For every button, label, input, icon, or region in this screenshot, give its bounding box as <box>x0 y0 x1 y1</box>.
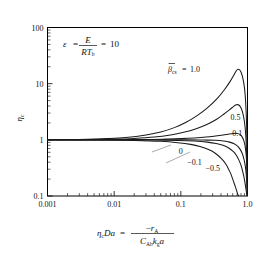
x-tick-labels: 0.0010.010.11.0 <box>39 200 253 209</box>
x-tick-label: 0.001 <box>39 200 57 209</box>
epsilon-equals-2: = <box>101 39 106 49</box>
epsilon-equals: = <box>73 39 78 49</box>
y-tick-label: 1 <box>40 136 44 145</box>
x-tick-label: 0.1 <box>176 200 186 209</box>
x-axis-equals: = <box>120 228 125 238</box>
y-axis-label: ηc <box>14 114 25 121</box>
y-tick-labels: 0.1110100 <box>32 24 44 202</box>
epsilon-numerator: E <box>84 35 91 45</box>
y-tick-label: 10 <box>36 80 44 89</box>
y-tick-label: 0.1 <box>34 192 44 201</box>
svg-text:ηc: ηc <box>14 114 25 121</box>
beta-symbol: βcs <box>167 65 177 75</box>
y-axis-eta-sub: c <box>19 114 25 117</box>
curve-label-neg0p5: −0.5 <box>205 164 220 173</box>
epsilon-value: 10 <box>110 39 120 49</box>
figure-container: 0.0010.010.11.0 0.1110100 0.50.10−0.1−0.… <box>0 0 266 260</box>
beta-legend-prefix: βcs = 1.0 <box>167 64 200 75</box>
x-axis-label: ηcDa = −rA CAbkga <box>97 223 174 247</box>
curve-0p5 <box>48 105 248 196</box>
curve-label-0p1: 0.1 <box>232 129 242 138</box>
x-tick-label: 1.0 <box>243 200 253 209</box>
epsilon-denominator: RTb <box>80 47 95 58</box>
curve-label-0p5: 0.5 <box>230 113 240 122</box>
curve-label-0: 0 <box>179 147 183 156</box>
y-tick-label: 100 <box>32 24 44 33</box>
chart-svg: 0.0010.010.11.0 0.1110100 0.50.10−0.1−0.… <box>0 0 266 260</box>
data-curves <box>48 69 248 196</box>
x-axis-numerator: −rA <box>146 223 159 234</box>
beta-equals: = <box>182 65 187 74</box>
epsilon-symbol: ε <box>63 39 67 49</box>
beta-value-top: 1.0 <box>190 65 200 74</box>
x-axis-denominator: CAbkga <box>140 236 165 247</box>
x-axis-lhs: ηcDa <box>97 228 115 239</box>
epsilon-annotation: ε = E RTb = 10 <box>63 35 120 57</box>
x-tick-label: 0.01 <box>107 200 121 209</box>
curve-label-neg0p1: −0.1 <box>187 158 202 167</box>
leader-line-zero <box>152 145 171 152</box>
